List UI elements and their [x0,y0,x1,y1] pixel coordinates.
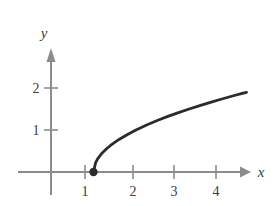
x-tick-label-1: 1 [82,184,89,199]
x-axis-arrow-icon [240,167,251,178]
y-axis-arrow-icon [47,48,56,62]
function-curve-path [94,92,247,172]
coordinate-plot: y x 1 2 3 4 1 2 [0,0,280,206]
x-tick-label-3: 3 [171,184,178,199]
x-tick-label-4: 4 [213,184,220,199]
x-axis-label: x [257,164,265,180]
graph-figure: y x 1 2 3 4 1 2 [0,0,280,206]
curve-endpoint-dot [89,168,97,176]
y-tick-label-1: 1 [33,123,40,138]
x-tick-label-2: 2 [130,184,137,199]
y-tick-label-2: 2 [33,81,40,96]
y-axis-label: y [39,25,48,41]
